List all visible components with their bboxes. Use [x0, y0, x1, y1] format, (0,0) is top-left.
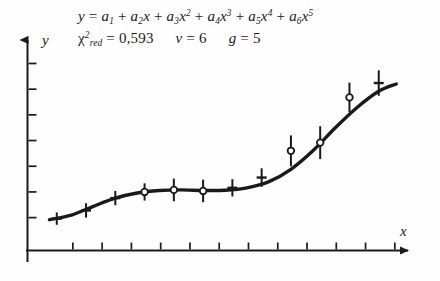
data-point [141, 183, 148, 200]
data-point [110, 191, 120, 205]
plot-area: y x [0, 0, 440, 281]
data-point [288, 135, 295, 166]
data-point [317, 126, 324, 159]
data-point [227, 179, 237, 196]
data-point [200, 180, 207, 203]
x-axis-ticks [73, 243, 395, 250]
fit-curve [49, 84, 396, 220]
data-point [171, 179, 178, 202]
figure-canvas: y = a1 + a2x + a3x2 + a4x3 + a5x4 + a6x5… [0, 0, 440, 281]
data-point [52, 212, 62, 224]
y-axis-ticks [29, 63, 37, 217]
marker-open-circle [288, 148, 295, 155]
y-axis-label: y [40, 32, 49, 48]
marker-open-circle [141, 189, 148, 196]
marker-open-circle [346, 94, 353, 101]
marker-open-circle [317, 139, 324, 146]
data-point [81, 203, 91, 217]
axes-group [26, 40, 408, 262]
data-point [346, 83, 353, 113]
marker-open-circle [171, 187, 178, 194]
marker-open-circle [200, 188, 207, 195]
x-axis-label: x [399, 223, 407, 239]
